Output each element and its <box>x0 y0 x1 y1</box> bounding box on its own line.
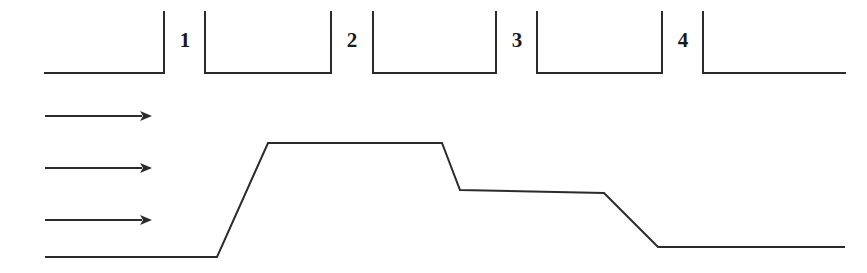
top-bracket-profile-group <box>45 12 845 73</box>
step-label-4: 4 <box>671 30 695 51</box>
step-label-1: 1 <box>173 30 197 51</box>
step-label-2: 2 <box>340 30 364 51</box>
bottom-step-profile-group <box>45 143 845 257</box>
top-bracket-profile-path <box>45 12 845 73</box>
flow-arrows-group <box>45 111 152 225</box>
figure-drawing <box>0 0 867 273</box>
step-label-3: 3 <box>505 30 529 51</box>
figure-canvas: 1234 <box>0 0 867 273</box>
bottom-step-profile-path <box>45 143 845 257</box>
